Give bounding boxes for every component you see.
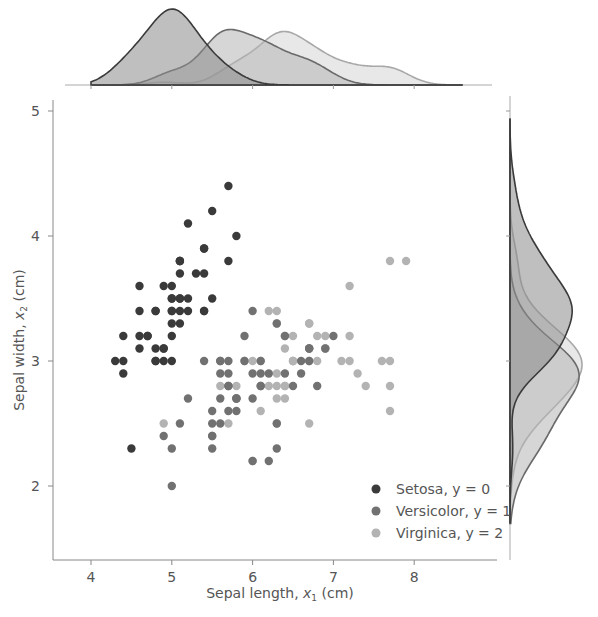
data-point [208, 432, 216, 440]
y-tick-label: 2 [31, 478, 40, 494]
data-point [208, 207, 216, 215]
data-point [378, 357, 386, 365]
data-point [135, 307, 143, 315]
data-point [313, 357, 321, 365]
data-point [119, 332, 127, 340]
data-point [273, 419, 281, 427]
data-point [119, 357, 127, 365]
data-point [273, 319, 281, 327]
data-point [232, 382, 240, 390]
data-point [305, 319, 313, 327]
legend-item-setosa: Setosa, y = 0 [372, 481, 491, 497]
data-point [257, 407, 265, 415]
data-point [200, 244, 208, 252]
data-point [168, 319, 176, 327]
data-point [135, 282, 143, 290]
x-tick-label: 6 [248, 569, 257, 585]
data-point [160, 357, 168, 365]
data-point [248, 307, 256, 315]
top-marginal-kde [65, 9, 492, 89]
data-point [289, 357, 297, 365]
data-point [265, 369, 273, 377]
y-tick-label: 4 [31, 228, 40, 244]
data-point [200, 307, 208, 315]
data-point [345, 332, 353, 340]
legend: Setosa, y = 0 Versicolor, y = 1 Virginic… [372, 481, 512, 541]
data-point [297, 369, 305, 377]
data-point [273, 307, 281, 315]
data-point [240, 332, 248, 340]
data-point [184, 307, 192, 315]
data-point [184, 394, 192, 402]
data-point [200, 269, 208, 277]
data-point [265, 382, 273, 390]
data-point [151, 307, 159, 315]
data-point [176, 307, 184, 315]
legend-label-setosa: Setosa, y = 0 [396, 481, 490, 497]
data-point [265, 307, 273, 315]
data-point [313, 332, 321, 340]
data-point [208, 419, 216, 427]
data-point [337, 357, 345, 365]
legend-item-versicolor: Versicolor, y = 1 [372, 503, 512, 519]
x-tick-label: 5 [167, 569, 176, 585]
data-point [232, 232, 240, 240]
data-point [200, 357, 208, 365]
data-point [208, 294, 216, 302]
data-point [240, 357, 248, 365]
data-point [176, 294, 184, 302]
data-point [305, 344, 313, 352]
data-point [232, 407, 240, 415]
data-point [386, 407, 394, 415]
legend-item-virginica: Virginica, y = 2 [372, 525, 504, 541]
data-point [135, 344, 143, 352]
data-point [160, 282, 168, 290]
data-point [184, 219, 192, 227]
data-point [248, 457, 256, 465]
x-tick-label: 7 [329, 569, 338, 585]
data-point [224, 419, 232, 427]
data-point [160, 419, 168, 427]
data-point [248, 357, 256, 365]
data-point [168, 444, 176, 452]
y-tick-label: 5 [31, 103, 40, 119]
data-point [216, 419, 224, 427]
data-point [321, 332, 329, 340]
data-point [224, 257, 232, 265]
data-point [168, 282, 176, 290]
data-point [119, 369, 127, 377]
data-point [321, 344, 329, 352]
data-point [265, 457, 273, 465]
data-point [257, 369, 265, 377]
x-tick-label: 8 [410, 569, 419, 585]
data-point [151, 357, 159, 365]
data-point [289, 332, 297, 340]
data-point [289, 382, 297, 390]
data-point [353, 369, 361, 377]
data-point [176, 319, 184, 327]
x-ticks: 45678 [87, 560, 419, 585]
data-point [386, 257, 394, 265]
data-point [305, 419, 313, 427]
data-point [257, 357, 265, 365]
data-point [216, 357, 224, 365]
data-point [160, 432, 168, 440]
data-point [345, 357, 353, 365]
data-point [313, 382, 321, 390]
data-point [143, 332, 151, 340]
data-point [273, 369, 281, 377]
data-point [224, 357, 232, 365]
y-ticks: 2345 [31, 103, 53, 494]
data-point [168, 357, 176, 365]
iris-joint-plot: 45678 2345 Sepal length, x1 (cm) Sepal w… [0, 0, 598, 617]
data-point [151, 344, 159, 352]
data-point [208, 444, 216, 452]
data-point [232, 394, 240, 402]
data-point [224, 369, 232, 377]
data-point [281, 369, 289, 377]
data-point [281, 344, 289, 352]
data-point [192, 269, 200, 277]
data-point [248, 369, 256, 377]
data-point [184, 294, 192, 302]
data-point [168, 294, 176, 302]
